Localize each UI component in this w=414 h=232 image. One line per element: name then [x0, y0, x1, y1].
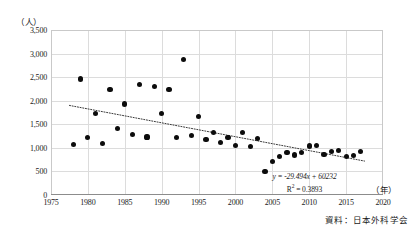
- plot-area: [51, 30, 383, 195]
- data-point: [189, 133, 194, 138]
- x-axis-tick-label: 2005: [265, 198, 280, 207]
- x-axis-tick-labels: 1975198019851990199520002005201020152020: [51, 198, 383, 212]
- data-point: [248, 144, 253, 149]
- chart-figure: （人） 05001,0001,5002,0002,5003,0003,500 1…: [0, 0, 414, 232]
- y-axis-tick-label: 1,000: [30, 143, 47, 152]
- x-axis-tick-label: 1985: [117, 198, 132, 207]
- x-axis-unit-label: （年）: [371, 183, 397, 195]
- y-axis-tick-label: 2,000: [30, 96, 47, 105]
- y-axis-tick-labels: 05001,0001,5002,0002,5003,0003,500: [0, 30, 47, 195]
- data-point: [284, 150, 289, 155]
- data-point: [115, 126, 120, 131]
- data-point: [307, 143, 312, 148]
- data-point: [196, 114, 201, 119]
- data-point: [107, 87, 112, 92]
- data-point: [152, 84, 157, 89]
- x-axis-tick-label: 1975: [43, 198, 58, 207]
- source-note: 資料：日本外科学会: [325, 213, 408, 225]
- regression-annotation: y = -29.494x + 60232 R2 = 0.3893: [242, 172, 367, 194]
- y-axis-tick-label: 1,500: [30, 120, 47, 129]
- data-point: [122, 101, 127, 106]
- x-axis-tick-label: 2015: [339, 198, 354, 207]
- trendline: [51, 30, 383, 195]
- x-axis-tick-label: 1980: [80, 198, 95, 207]
- r-squared-value: R2 = 0.3893: [242, 182, 367, 194]
- regression-equation: y = -29.494x + 60232: [242, 172, 367, 182]
- data-point: [329, 149, 334, 154]
- y-axis-tick-label: 2,500: [30, 73, 47, 82]
- x-axis-tick-label: 2000: [228, 198, 243, 207]
- data-point: [203, 137, 208, 142]
- data-point: [270, 159, 275, 164]
- x-axis-tick-label: 1990: [154, 198, 169, 207]
- x-axis-tick-label: 2010: [302, 198, 317, 207]
- y-axis-tick-label: 500: [36, 167, 47, 176]
- data-point: [93, 111, 98, 116]
- r-squared-number: = 0.3893: [294, 184, 322, 193]
- y-axis-tick-label: 3,500: [30, 26, 47, 35]
- data-point: [78, 76, 83, 81]
- data-point: [321, 152, 326, 157]
- data-point: [344, 154, 349, 159]
- data-point: [225, 135, 230, 140]
- data-point: [255, 136, 260, 141]
- data-point: [71, 142, 76, 147]
- x-axis-tick-label: 2020: [375, 198, 390, 207]
- data-point: [292, 152, 297, 157]
- data-point: [130, 132, 135, 137]
- x-axis-tick-label: 1995: [191, 198, 206, 207]
- data-point: [144, 134, 149, 139]
- y-axis-tick-label: 3,000: [30, 49, 47, 58]
